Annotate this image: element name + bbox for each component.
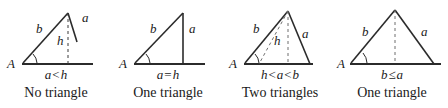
side-b-line [351,10,395,63]
svg-two-triangles: A b a h [224,0,336,70]
condition-right: h [61,67,68,82]
condition-op: ≤ [387,67,396,82]
diagram-one-triangle-obtuse: A b a [336,0,448,70]
svg-no-triangle: A b a h [0,0,112,70]
condition-text: h<a<b [224,68,336,86]
panel-no-triangle: A b a h a<h No triangle [0,0,112,108]
condition-right: h [173,67,180,82]
condition-text: b≤a [336,68,448,86]
svg-one-triangle-obtuse: A b a [336,0,448,70]
side-b-label: b [150,21,157,36]
diagram-one-triangle-right: A b a [112,0,224,70]
condition-op2: < [283,67,292,82]
side-a-label: a [302,26,309,41]
side-a-label: a [421,24,428,39]
side-b-line [135,13,183,63]
height-label: h [274,33,281,48]
diagram-no-triangle: A b a h [0,0,112,70]
panel-one-triangle-obtuse: A b a b≤a One triangle [336,0,448,108]
condition-op: = [163,67,172,82]
condition-op: < [51,67,60,82]
condition-text: a<h [0,68,112,86]
side-b-label: b [36,21,43,36]
angle-arc [363,53,367,63]
panel-one-triangle-right: A b a a=h One triangle [112,0,224,108]
condition-text: a=h [112,68,224,86]
panel-two-triangles: A b a h h<a<b Two triangles [224,0,336,108]
conclusion-text: One triangle [336,86,448,100]
conclusion-text: No triangle [0,86,112,100]
ssa-ambiguous-case-figure: A b a h a<h No triangle A [0,0,448,108]
condition-op: < [267,67,276,82]
angle-arc [255,54,259,63]
captions-one-triangle-obtuse: b≤a One triangle [336,68,448,100]
diagram-two-triangles: A b a h [224,0,336,70]
side-b-label: b [362,24,369,39]
conclusion-text: One triangle [112,86,224,100]
conclusion-text: Two triangles [224,86,336,100]
angle-arc [146,54,150,63]
condition-right: b [293,67,300,82]
height-label: h [57,33,64,48]
captions-no-triangle: a<h No triangle [0,68,112,100]
side-a-label: a [189,21,196,36]
captions-two-triangles: h<a<b Two triangles [224,68,336,100]
side-a-line [395,10,434,64]
captions-one-triangle-right: a=h One triangle [112,68,224,100]
side-a-line [68,13,77,42]
condition-right: a [397,67,404,82]
side-a-label: a [82,10,89,25]
side-b-line [245,11,288,63]
angle-arc [33,54,37,63]
svg-one-triangle-right: A b a [112,0,224,70]
side-b-label: b [253,21,260,36]
